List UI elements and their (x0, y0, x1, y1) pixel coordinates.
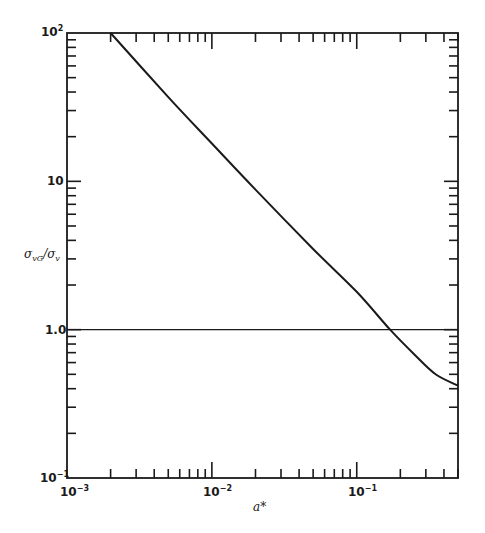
x-axis-title: a* (253, 500, 266, 514)
x-tick-label-0.1: 10−1 (348, 484, 377, 499)
x-tick-label-0.001: 10−3 (60, 484, 89, 499)
axis-ticks (67, 33, 458, 478)
chart-canvas (0, 0, 485, 533)
y-axis-title: σvG/σv (24, 247, 60, 263)
x-tick-label-0.01: 10−2 (203, 484, 232, 499)
y-tick-label-100: 102 (41, 24, 63, 39)
y-tick-label-0.1: 10−1 (40, 470, 69, 485)
y-tick-label-1: 1.0 (45, 323, 66, 337)
data-curve (111, 33, 458, 386)
y-tick-label-10: 10 (47, 174, 64, 188)
plot-frame (67, 33, 458, 478)
